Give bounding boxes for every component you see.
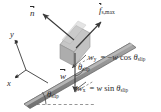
axis-y-label: y: [10, 30, 14, 39]
wx-equation-label: wx = w sin θslip: [77, 84, 128, 93]
coordinate-axes: [15, 40, 48, 83]
weight-label: w: [60, 72, 66, 81]
normal-force-vector: [43, 14, 74, 40]
normal-force-label: n: [30, 9, 35, 18]
inclined-plane-diagram: n fs,max w y x θslip θslip wy = −w cos θ…: [0, 0, 161, 112]
theta-slip-base-label: θslip: [47, 90, 59, 99]
wy-equation-label: wy = −w cos θslip: [88, 53, 145, 62]
axis-x-label: x: [7, 79, 11, 88]
theta-slip-block-label: θslip: [78, 63, 90, 72]
static-friction-label: fs,max: [99, 6, 115, 16]
